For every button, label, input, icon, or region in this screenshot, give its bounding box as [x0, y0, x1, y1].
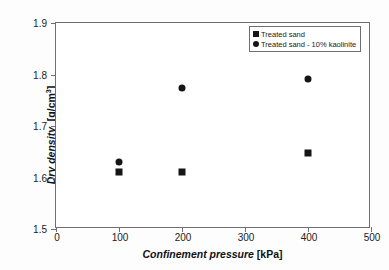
- chart-figure: Dry density [g/cm3] 1.51.61.71.81.9 0100…: [0, 0, 389, 270]
- circle-marker: [253, 41, 259, 47]
- x-axis-tick-label: 200: [175, 233, 192, 243]
- y-axis-tick: 1.9: [51, 23, 56, 24]
- x-axis-tick: 500: [371, 227, 372, 232]
- data-point: [116, 158, 123, 165]
- square-marker: [253, 31, 259, 37]
- data-point: [116, 169, 123, 176]
- data-point: [179, 85, 186, 92]
- legend-item: Treated sand: [253, 29, 356, 39]
- x-axis-tick: 100: [119, 227, 120, 232]
- plot-area: 1.51.61.71.81.9 0100200300400500: [55, 22, 370, 228]
- x-axis-tick-label: 400: [301, 233, 318, 243]
- y-axis-tick-label: 1.6: [33, 174, 47, 184]
- x-axis-title-text: Confinement pressure: [142, 248, 253, 260]
- y-axis-tick-label: 1.5: [33, 225, 47, 235]
- data-point: [305, 149, 312, 156]
- x-axis-title: Confinement pressure [kPa]: [55, 248, 370, 260]
- x-axis-tick-label: 300: [238, 233, 255, 243]
- x-axis-tick-label: 500: [364, 233, 381, 243]
- x-axis-tick-label: 100: [112, 233, 129, 243]
- y-axis-tick-label: 1.7: [33, 122, 47, 132]
- legend-item-label: Treated sand: [261, 30, 305, 39]
- y-axis-tick: 1.7: [51, 126, 56, 127]
- chart-legend: Treated sandTreated sand - 10% kaolinite: [249, 26, 361, 52]
- y-axis-tick-label: 1.8: [33, 71, 47, 81]
- x-axis-tick: 200: [182, 227, 183, 232]
- legend-item-label: Treated sand - 10% kaolinite: [261, 40, 356, 49]
- legend-item: Treated sand - 10% kaolinite: [253, 39, 356, 49]
- data-point: [305, 75, 312, 82]
- x-axis-tick-label: 0: [54, 233, 60, 243]
- x-axis-tick: 400: [308, 227, 309, 232]
- y-axis-tick-label: 1.9: [33, 19, 47, 29]
- y-axis-tick: 1.6: [51, 178, 56, 179]
- x-axis-tick: 0: [56, 227, 57, 232]
- x-axis-title-unit: [kPa]: [257, 248, 283, 260]
- y-axis-tick: 1.8: [51, 75, 56, 76]
- data-point: [179, 168, 186, 175]
- x-axis-tick: 300: [245, 227, 246, 232]
